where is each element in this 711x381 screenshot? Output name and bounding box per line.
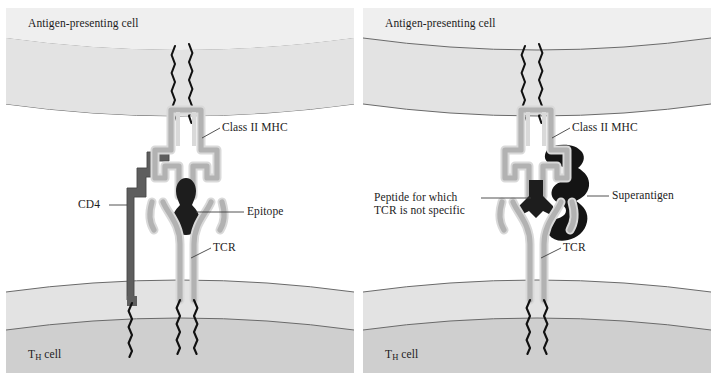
label-non-specific-peptide: Peptide for whichTCR is not specific bbox=[374, 191, 482, 217]
label-th-cell: TH cell bbox=[28, 348, 61, 364]
panel-conventional-antigen: Antigen-presenting cell Class II MHC CD4… bbox=[6, 0, 354, 381]
th-cell-suffix: cell bbox=[398, 348, 418, 360]
label-epitope: Epitope bbox=[247, 205, 283, 218]
immunology-diagram: Antigen-presenting cell Class II MHC CD4… bbox=[0, 0, 711, 381]
peptide-label-line-2: TCR is not specific bbox=[374, 204, 465, 216]
panel-superantigen: Antigen-presenting cell Class II MHC Pep… bbox=[363, 0, 711, 381]
th-cell-suffix: cell bbox=[41, 348, 61, 360]
label-class-ii-mhc: Class II MHC bbox=[572, 121, 638, 134]
label-antigen-presenting-cell: Antigen-presenting cell bbox=[385, 17, 496, 30]
peptide-label-line-1: Peptide for which bbox=[374, 191, 457, 203]
label-tcr: TCR bbox=[563, 241, 586, 254]
non-specific-peptide bbox=[519, 180, 553, 218]
label-tcr: TCR bbox=[213, 241, 236, 254]
label-class-ii-mhc: Class II MHC bbox=[222, 121, 288, 134]
label-th-cell: TH cell bbox=[385, 348, 418, 364]
label-superantigen: Superantigen bbox=[612, 189, 674, 202]
label-antigen-presenting-cell: Antigen-presenting cell bbox=[28, 17, 139, 30]
label-cd4: CD4 bbox=[78, 198, 100, 211]
